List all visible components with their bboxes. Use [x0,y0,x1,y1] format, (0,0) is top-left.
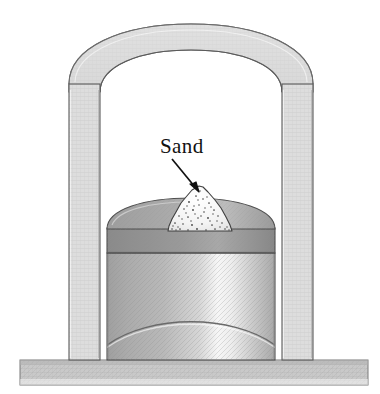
sand-piston-figure: Sand [0,0,380,394]
arch-top [69,24,313,92]
sand-arrow [172,159,199,192]
piston-band [107,228,275,253]
sand-label: Sand [160,134,204,158]
figure-canvas: Sand [0,0,380,394]
ground [20,360,368,385]
left-wall [69,84,100,360]
cylinder-body [107,253,275,360]
right-wall [282,84,313,360]
